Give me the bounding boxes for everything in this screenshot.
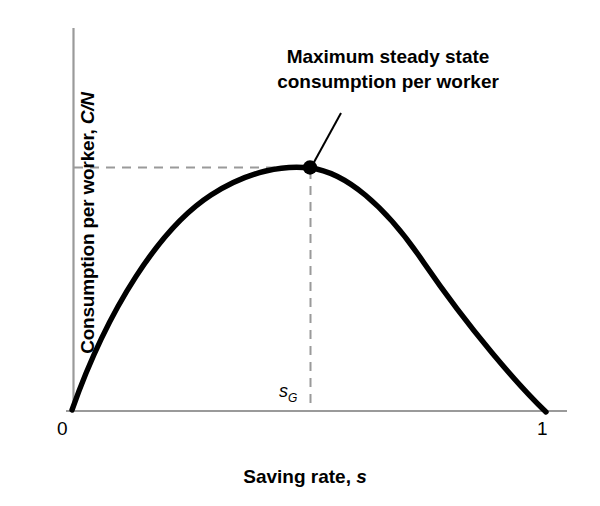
- y-axis-label: Consumption per worker, C/N: [77, 23, 99, 423]
- consumption-curve: [72, 167, 546, 412]
- annotation-line-2: consumption per worker: [277, 71, 499, 92]
- y-axis-label-symbol: C/N: [77, 92, 98, 124]
- x-tick-label-one: 1: [537, 418, 548, 440]
- peak-marker-dot: [303, 160, 317, 174]
- x-axis-label: Saving rate, s: [140, 466, 470, 488]
- annotation-line-1: Maximum steady state: [287, 46, 490, 67]
- y-axis-label-text: Consumption per worker,: [77, 124, 98, 354]
- annotation-leader-line: [313, 113, 341, 164]
- chart-figure: Maximum steady state consumption per wor…: [0, 0, 600, 506]
- golden-rule-symbol: s: [279, 381, 288, 401]
- x-axis-label-symbol: s: [356, 466, 367, 487]
- annotation-label: Maximum steady state consumption per wor…: [238, 44, 538, 94]
- x-axis-label-text: Saving rate,: [243, 466, 356, 487]
- golden-rule-subscript: G: [288, 391, 297, 405]
- x-tick-label-zero: 0: [57, 418, 68, 440]
- golden-rule-saving-rate-label: sG: [279, 381, 297, 405]
